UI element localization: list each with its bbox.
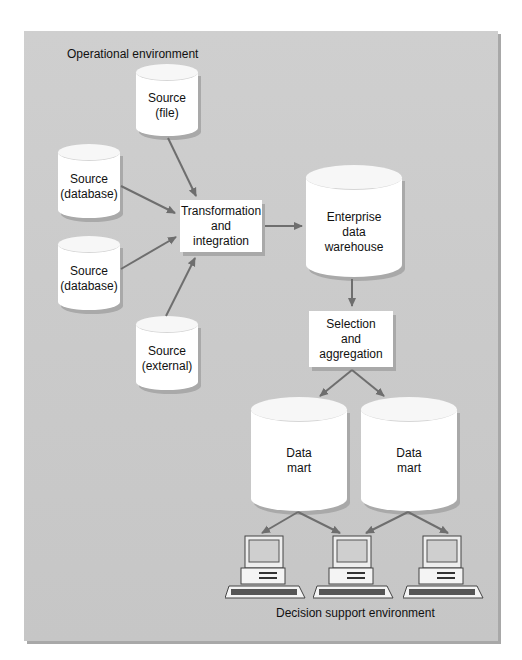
computer-2-icon [313,534,395,602]
computer-1-icon [225,534,307,602]
decision-support-environment-label: Decision support environment [276,606,435,620]
computer-3-icon [403,534,485,602]
